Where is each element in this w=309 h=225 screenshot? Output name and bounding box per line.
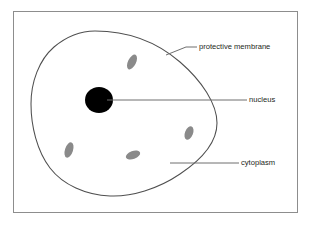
label-cytoplasm: cytoplasm [241,158,275,167]
label-protective-membrane: protective membrane [199,42,270,51]
label-nucleus: nucleus [249,95,275,104]
diagram-canvas: protective membrane nucleus cytoplasm [0,0,309,225]
cell-diagram: protective membrane nucleus cytoplasm [0,0,309,225]
